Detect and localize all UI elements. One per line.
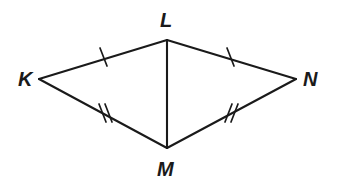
segment-kl (39, 40, 167, 79)
vertex-label-n: N (303, 68, 318, 90)
geometry-diagram-kite-klmn: K L N M (0, 0, 339, 186)
vertex-label-l: L (160, 9, 172, 31)
tick-mark-single-ln (227, 48, 234, 66)
segment-mn (167, 79, 296, 148)
geometry-figure-container: K L N M (0, 0, 339, 186)
vertex-label-k: K (18, 68, 34, 90)
vertex-label-m: M (157, 158, 175, 180)
tick-mark-single-kl (100, 48, 107, 66)
tick-mark-double-km-b (105, 104, 112, 122)
